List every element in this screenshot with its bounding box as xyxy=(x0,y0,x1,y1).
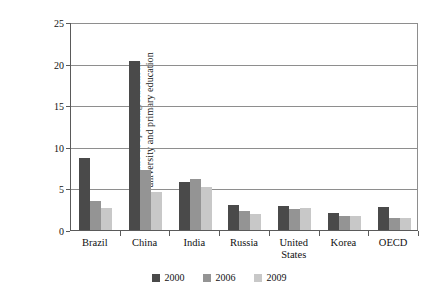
legend-label: 2000 xyxy=(165,272,185,283)
bar xyxy=(350,216,361,230)
legend-item[interactable]: 2009 xyxy=(254,272,287,283)
x-axis-tick-mark xyxy=(269,231,270,236)
x-axis-label-line: OECD xyxy=(350,237,436,249)
bar-group xyxy=(71,22,121,230)
legend-item[interactable]: 2006 xyxy=(203,272,236,283)
bar-group xyxy=(369,22,419,230)
bar xyxy=(289,209,300,230)
bar xyxy=(300,208,311,230)
y-axis-tick-label: 0 xyxy=(24,226,64,237)
chart-container: Ratio of spending/student in university … xyxy=(0,0,438,297)
bar-group xyxy=(170,22,220,230)
bar xyxy=(190,179,201,230)
bar xyxy=(378,207,389,230)
bar-group xyxy=(270,22,320,230)
bar xyxy=(151,192,162,230)
plot-area xyxy=(70,23,418,231)
bar xyxy=(389,218,400,230)
legend-label: 2006 xyxy=(216,272,236,283)
bar xyxy=(400,218,411,230)
legend-label: 2009 xyxy=(267,272,287,283)
bar-group xyxy=(320,22,370,230)
legend-item[interactable]: 2000 xyxy=(152,272,185,283)
bar xyxy=(278,206,289,230)
bar xyxy=(201,187,212,230)
x-axis-tick-mark xyxy=(319,231,320,236)
legend-swatch-icon xyxy=(203,274,211,282)
x-axis-tick-mark xyxy=(418,231,419,236)
legend-swatch-icon xyxy=(254,274,262,282)
bar xyxy=(250,214,261,230)
chart-legend: 200020062009 xyxy=(0,272,438,283)
bar xyxy=(179,182,190,230)
y-axis-tick-label: 25 xyxy=(24,18,64,29)
bar xyxy=(79,158,90,230)
y-axis-tick-label: 20 xyxy=(24,59,64,70)
y-axis-tick-label: 5 xyxy=(24,184,64,195)
x-axis-tick-mark xyxy=(169,231,170,236)
legend-swatch-icon xyxy=(152,274,160,282)
x-axis-tick-mark xyxy=(368,231,369,236)
bar xyxy=(90,201,101,230)
bar xyxy=(228,205,239,230)
x-axis-tick-mark xyxy=(219,231,220,236)
bar xyxy=(101,208,112,230)
y-axis-title: Ratio of spending/student in university … xyxy=(0,0,44,240)
bar xyxy=(339,216,350,230)
y-axis-tick-label: 15 xyxy=(24,101,64,112)
bar-group xyxy=(121,22,171,230)
x-axis-label-line: States xyxy=(251,249,337,261)
bar-group xyxy=(220,22,270,230)
bar xyxy=(140,170,151,230)
x-axis-label: OECD xyxy=(350,237,436,249)
bar xyxy=(328,213,339,230)
bar xyxy=(239,211,250,230)
bar xyxy=(129,61,140,230)
y-axis-tick-label: 10 xyxy=(24,142,64,153)
y-axis-tick-mark xyxy=(66,231,70,232)
x-axis-tick-mark xyxy=(120,231,121,236)
